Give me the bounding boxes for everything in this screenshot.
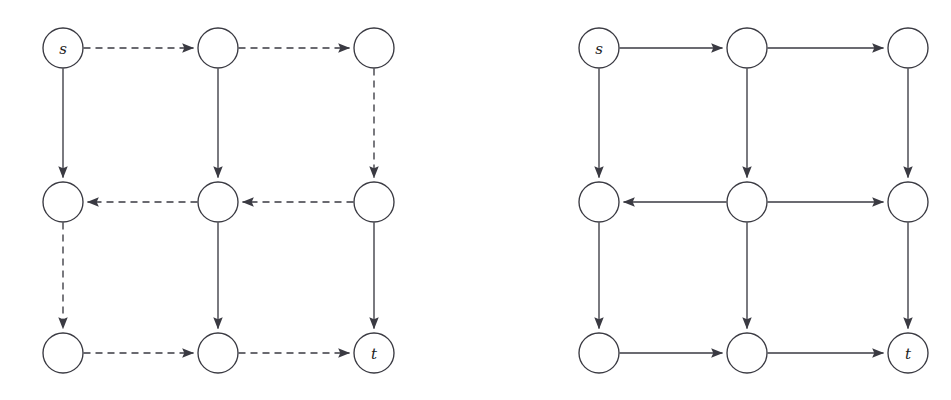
graph-node-n12[interactable] (198, 333, 238, 373)
node-circle (727, 182, 767, 222)
node-circle (198, 182, 238, 222)
node-circle (198, 333, 238, 373)
node-circle (198, 28, 238, 68)
node-circle (727, 333, 767, 373)
node-circle (354, 182, 394, 222)
node-label-t: t (905, 345, 912, 363)
graph-node-n01[interactable] (43, 182, 83, 222)
graph-node-m01[interactable] (579, 182, 619, 222)
node-circle (727, 28, 767, 68)
graph-node-n02[interactable] (43, 333, 83, 373)
graph-node-m10[interactable] (727, 28, 767, 68)
graph-node-m11[interactable] (727, 182, 767, 222)
node-label-s: s (59, 40, 67, 58)
node-circle (888, 182, 928, 222)
graph-node-m20[interactable] (888, 28, 928, 68)
graph-canvas: stst (0, 0, 951, 400)
graph-node-n10[interactable] (198, 28, 238, 68)
node-circle (43, 333, 83, 373)
node-circle (579, 182, 619, 222)
graph-node-n22-t[interactable]: t (354, 333, 394, 373)
node-circle (579, 333, 619, 373)
graph-node-m00-s[interactable]: s (579, 28, 619, 68)
graph-node-m02[interactable] (579, 333, 619, 373)
node-label-s: s (595, 40, 603, 58)
node-circle (888, 28, 928, 68)
graph-node-n00-s[interactable]: s (43, 28, 83, 68)
graph-node-n21[interactable] (354, 182, 394, 222)
graph-node-n20[interactable] (354, 28, 394, 68)
nodes-layer: stst (43, 28, 928, 373)
node-circle (43, 182, 83, 222)
graph-node-n11[interactable] (198, 182, 238, 222)
edges-layer (63, 48, 908, 353)
node-label-t: t (371, 345, 378, 363)
node-circle (354, 28, 394, 68)
graph-node-m22-t[interactable]: t (888, 333, 928, 373)
panel-nodes-flow-graph-solid: st (579, 28, 928, 373)
graph-node-m12[interactable] (727, 333, 767, 373)
graph-node-m21[interactable] (888, 182, 928, 222)
figure-root: stst (0, 0, 951, 400)
